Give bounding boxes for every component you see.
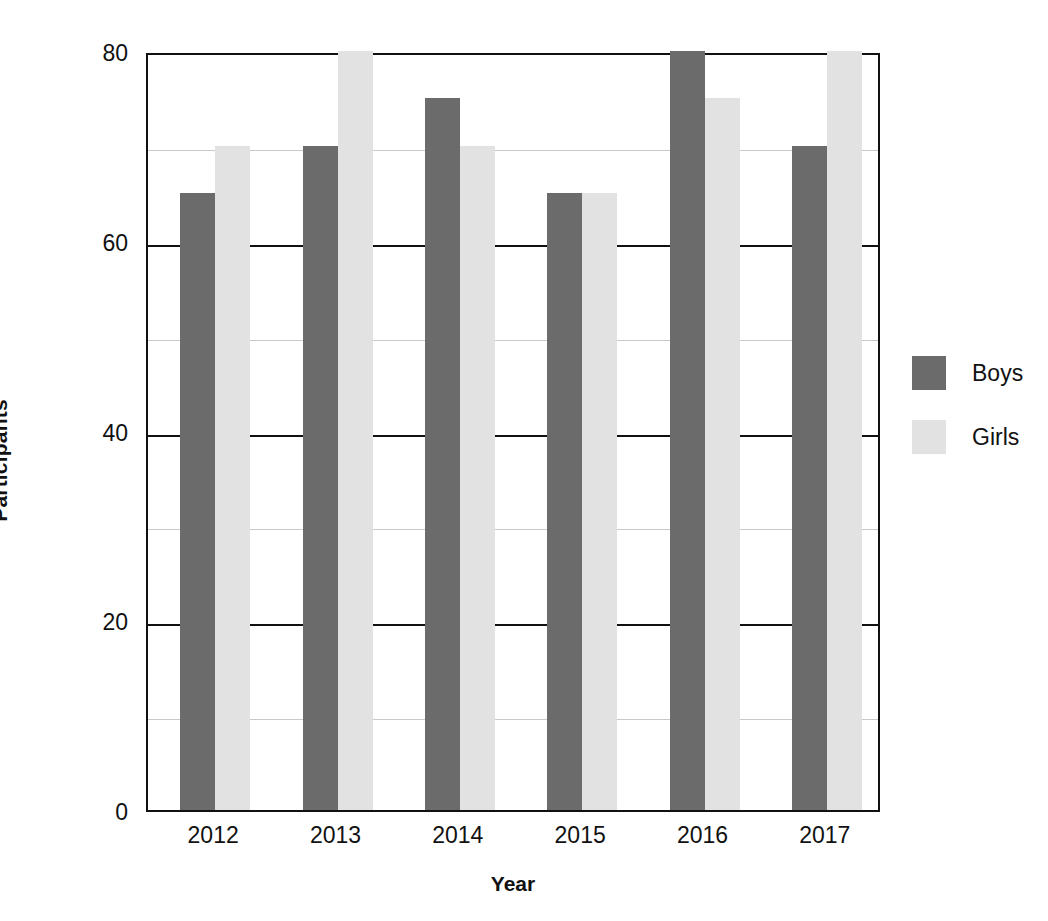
x-axis-tick-labels: 201220132014201520162017 [146, 822, 880, 862]
x-axis-title: Year [146, 872, 880, 896]
bar-girls-2015 [582, 193, 617, 810]
x-tick-label-2012: 2012 [153, 822, 273, 849]
bar-boys-2017 [792, 146, 827, 810]
legend-swatch-boys [912, 356, 946, 390]
y-tick-label: 0 [58, 799, 128, 826]
legend-item-boys[interactable]: Boys [912, 356, 1042, 390]
bar-boys-2015 [547, 193, 582, 810]
legend-swatch-girls [912, 420, 946, 454]
legend-label-girls: Girls [972, 424, 1019, 451]
y-tick-label: 20 [58, 609, 128, 636]
bar-girls-2016 [705, 98, 740, 810]
y-tick-label: 40 [58, 419, 128, 446]
bar-boys-2014 [425, 98, 460, 810]
y-tick-label: 60 [58, 229, 128, 256]
chart-legend: BoysGirls [912, 356, 1042, 484]
bar-girls-2014 [460, 146, 495, 810]
bar-girls-2013 [338, 51, 373, 810]
x-tick-label-2016: 2016 [643, 822, 763, 849]
plot-area [146, 53, 880, 812]
legend-label-boys: Boys [972, 360, 1023, 387]
bar-girls-2017 [827, 51, 862, 810]
bar-boys-2012 [180, 193, 215, 810]
bar-chart: Participants 020406080 20122013201420152… [0, 0, 1048, 921]
x-tick-label-2014: 2014 [398, 822, 518, 849]
x-tick-label-2015: 2015 [520, 822, 640, 849]
bar-girls-2012 [215, 146, 250, 810]
legend-item-girls[interactable]: Girls [912, 420, 1042, 454]
bars-layer [148, 55, 878, 810]
y-axis-tick-labels: 020406080 [48, 53, 128, 812]
bar-boys-2016 [670, 51, 705, 810]
x-tick-label-2013: 2013 [276, 822, 396, 849]
y-tick-label: 80 [58, 40, 128, 67]
bar-boys-2013 [303, 146, 338, 810]
x-tick-label-2017: 2017 [765, 822, 885, 849]
